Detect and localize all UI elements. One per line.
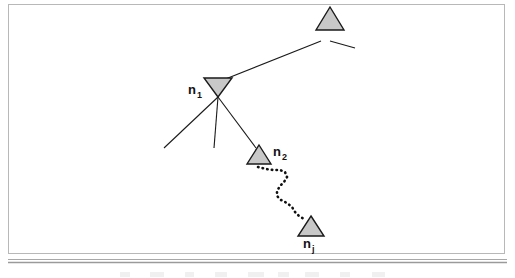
- node-n2-subscript: 2: [282, 152, 287, 162]
- node-n1-label: n: [188, 82, 196, 97]
- node-n2-label: n: [273, 144, 281, 159]
- node-nj-label: n: [303, 236, 311, 251]
- page-background: [0, 0, 515, 278]
- caption-remnant: [120, 272, 385, 277]
- figure-container: n 1 n 2 n j: [0, 0, 515, 278]
- node-nj-subscript: j: [311, 244, 315, 254]
- node-n1-subscript: 1: [197, 90, 202, 100]
- node-diagram-svg: n 1 n 2 n j: [0, 0, 515, 278]
